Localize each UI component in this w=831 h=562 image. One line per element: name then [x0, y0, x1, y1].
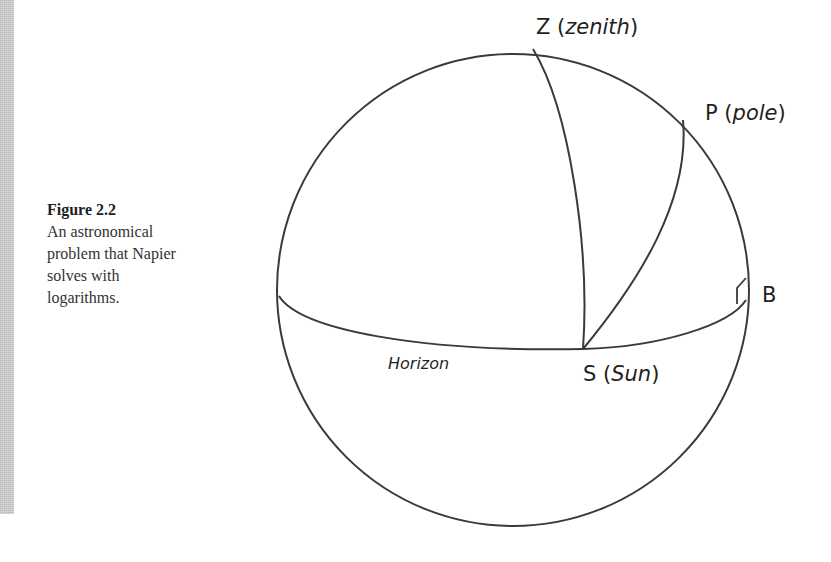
zenith-name: zenith — [565, 15, 630, 39]
celestial-sphere-outline — [277, 54, 749, 526]
zenith-paren-open: ( — [550, 15, 565, 39]
zenith-letter: Z — [536, 15, 550, 39]
pole-name: pole — [733, 101, 778, 125]
arc-zenith-to-sun — [533, 49, 584, 349]
label-b: B — [762, 285, 776, 306]
celestial-sphere-diagram — [0, 0, 831, 562]
label-zenith: Z (zenith) — [536, 17, 638, 38]
sun-paren-open: ( — [596, 362, 611, 386]
right-angle-marker — [737, 278, 746, 304]
pole-letter: P — [705, 101, 718, 125]
sun-paren-close: ) — [651, 362, 659, 386]
arc-pole-to-sun — [583, 120, 684, 349]
label-horizon: Horizon — [388, 356, 449, 372]
label-pole: P (pole) — [705, 103, 786, 124]
sun-name: Sun — [611, 362, 651, 386]
horizon-great-circle — [279, 296, 746, 349]
sun-letter: S — [583, 362, 596, 386]
label-sun: S (Sun) — [583, 364, 659, 385]
zenith-paren-close: ) — [630, 15, 638, 39]
b-letter: B — [762, 283, 776, 307]
pole-paren-close: ) — [777, 101, 785, 125]
pole-paren-open: ( — [718, 101, 733, 125]
